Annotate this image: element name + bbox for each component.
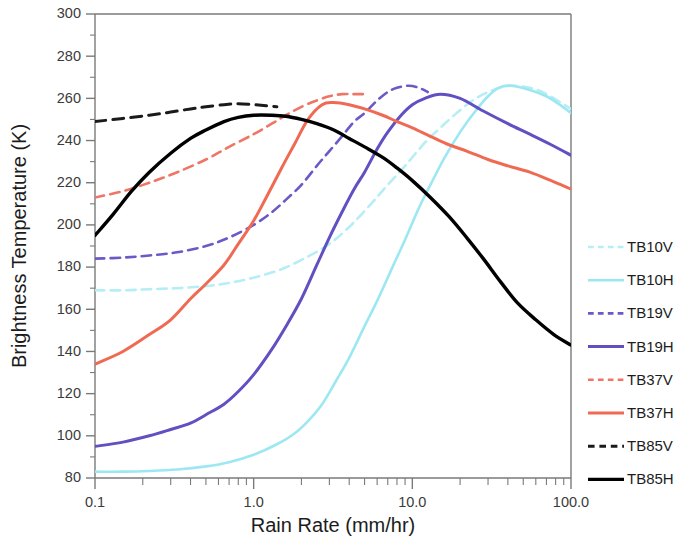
chart-figure: 80100120140160180200220240260280300 0.11… bbox=[0, 0, 678, 537]
y-tick-label: 240 bbox=[57, 132, 81, 148]
y-axis-title: Brightness Temperature (K) bbox=[8, 124, 30, 368]
y-tick-label: 260 bbox=[57, 90, 81, 106]
data-series-group bbox=[95, 86, 571, 472]
legend-label-tb37v: TB37V bbox=[627, 371, 673, 388]
axis-major-ticks bbox=[86, 14, 571, 489]
legend-label-tb85v: TB85V bbox=[627, 437, 673, 454]
y-tick-label: 180 bbox=[57, 258, 81, 274]
chart-canvas: 80100120140160180200220240260280300 0.11… bbox=[0, 0, 678, 537]
legend-label-tb85h: TB85H bbox=[627, 470, 674, 487]
axis-lines bbox=[95, 14, 571, 478]
series-line-tb37v bbox=[95, 94, 365, 198]
y-tick-label: 100 bbox=[57, 427, 81, 443]
legend-label-tb19v: TB19V bbox=[627, 304, 673, 321]
legend-label-tb10h: TB10H bbox=[627, 271, 674, 288]
x-tick-label: 10.0 bbox=[398, 494, 426, 510]
x-axis-title: Rain Rate (mm/hr) bbox=[251, 514, 415, 536]
series-line-tb10v bbox=[95, 86, 571, 291]
y-tick-label: 160 bbox=[57, 301, 81, 317]
y-tick-label: 80 bbox=[65, 469, 81, 485]
y-tick-labels: 80100120140160180200220240260280300 bbox=[57, 5, 81, 485]
y-tick-label: 220 bbox=[57, 174, 81, 190]
series-line-tb19v bbox=[95, 86, 428, 259]
legend-label-tb19h: TB19H bbox=[627, 338, 674, 355]
y-tick-label: 120 bbox=[57, 385, 81, 401]
y-tick-label: 280 bbox=[57, 48, 81, 64]
y-tick-label: 140 bbox=[57, 343, 81, 359]
x-tick-label: 100.0 bbox=[553, 494, 589, 510]
chart-legend: TB10VTB10HTB19VTB19HTB37VTB37HTB85VTB85H bbox=[588, 238, 674, 487]
x-tick-label: 1.0 bbox=[244, 494, 264, 510]
y-tick-label: 200 bbox=[57, 216, 81, 232]
x-tick-label: 0.1 bbox=[85, 494, 105, 510]
legend-label-tb10v: TB10V bbox=[627, 238, 673, 255]
legend-label-tb37h: TB37H bbox=[627, 404, 674, 421]
series-line-tb85v bbox=[95, 104, 277, 122]
y-tick-label: 300 bbox=[57, 5, 81, 21]
series-line-tb19h bbox=[95, 94, 571, 446]
x-tick-labels: 0.11.010.0100.0 bbox=[85, 494, 589, 510]
